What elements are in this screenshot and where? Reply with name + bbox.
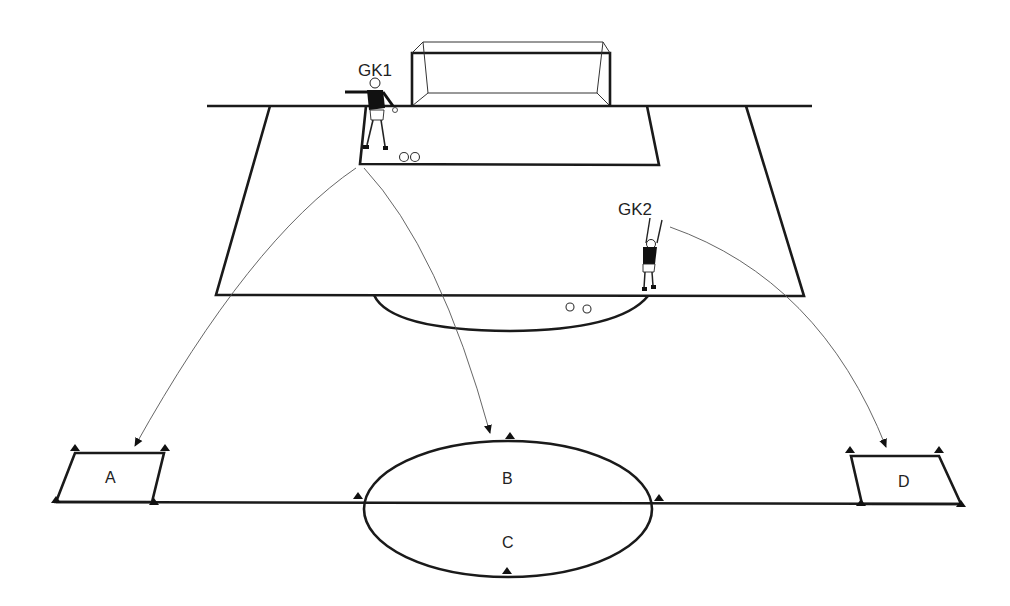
goalkeeper-2-figure	[642, 218, 662, 291]
pass-gk2-to-d	[670, 227, 886, 447]
zone-bc-ellipse	[364, 441, 652, 577]
cone-icon	[160, 444, 170, 451]
cone-icon	[353, 492, 363, 499]
cone-icon	[51, 496, 61, 503]
cone-icon	[505, 432, 515, 439]
field-line	[56, 502, 962, 504]
gk1-label: GK1	[358, 61, 392, 80]
zone-a-label: A	[105, 469, 116, 486]
pass-gk1-to-a	[135, 168, 356, 446]
pass-gk1-to-b	[364, 168, 490, 433]
cone-icon	[502, 567, 512, 574]
zone-c-label: C	[502, 534, 514, 551]
cone-icon	[70, 444, 80, 451]
gk2-label: GK2	[618, 200, 652, 219]
penalty-area	[216, 106, 804, 296]
cone-icon	[654, 494, 664, 501]
penalty-arc	[374, 295, 648, 331]
balls-penalty-arc	[566, 303, 591, 313]
cone-icon	[934, 446, 944, 453]
balls-six-yard	[400, 153, 420, 162]
goalkeeper-1-figure	[345, 78, 398, 150]
cone-icon	[845, 446, 855, 453]
drill-diagram: GK1 GK2 A B C D	[0, 0, 1010, 606]
goal	[412, 42, 610, 106]
zone-d-label: D	[898, 473, 910, 490]
zone-b-label: B	[502, 470, 513, 487]
